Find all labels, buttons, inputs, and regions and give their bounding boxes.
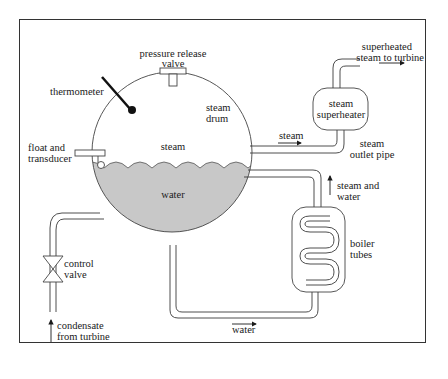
label-steam-drum-2: drum [206,113,228,124]
label-superheater: steam [329,98,354,109]
label-float-2: transducer [28,153,72,164]
label-condensate-2: from turbine [57,331,110,342]
label-superheated: superheated [362,41,413,52]
label-outlet: steam [360,138,385,149]
label-steam-space: steam [161,141,186,152]
label-thermometer: thermometer [50,86,104,97]
riser-pipe [244,170,321,207]
boiler-tubes [292,207,345,292]
label-boiler-tubes-2: tubes [350,249,372,260]
superheated-steam-pipe [333,59,360,88]
label-float: float and [28,142,66,153]
label-superheater-2: superheater [317,109,366,120]
label-steam-flow: steam [279,130,304,141]
boiler-diagram: pressure release valve thermometer steam… [0,0,448,379]
label-condensate: condensate [57,320,104,331]
label-control-valve-2: valve [64,269,87,280]
label-steam-water: steam and [337,180,380,191]
label-water-return: water [232,324,256,335]
label-pressure-release-valve-2: valve [162,58,185,69]
label-boiler-tubes: boiler [350,238,375,249]
control-valve-icon [43,256,63,282]
label-outlet-2: outlet pipe [350,149,395,160]
label-control-valve: control [64,258,94,269]
label-superheated-2: steam to turbine [356,52,424,63]
pressure-release-valve-icon [160,68,186,86]
float-transducer-icon [75,150,105,169]
thermometer-icon [102,77,136,114]
label-steam-drum: steam [206,102,231,113]
label-water: water [161,189,185,200]
label-steam-water-2: water [337,191,361,202]
